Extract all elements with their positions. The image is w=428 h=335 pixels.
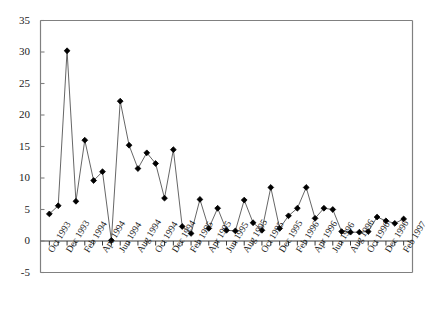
y-axis-tick-label: 20 (4, 109, 30, 120)
data-point-marker (64, 48, 70, 54)
data-series-line (49, 51, 403, 241)
data-point-marker (162, 195, 168, 201)
y-axis-tick-label: 10 (4, 172, 30, 183)
y-axis-tick-label: 35 (4, 15, 30, 26)
data-point-marker (268, 185, 274, 191)
data-point-marker (117, 98, 123, 104)
y-axis-tick-label: -5 (4, 267, 30, 278)
y-axis-tick-label: 25 (4, 78, 30, 89)
data-point-marker (330, 207, 336, 213)
data-point-marker (374, 214, 380, 220)
data-point-marker (73, 198, 79, 204)
data-point-marker (170, 147, 176, 153)
y-axis-tick-label: 0 (4, 235, 30, 246)
data-point-marker (303, 185, 309, 191)
y-axis-tick-label: 5 (4, 204, 30, 215)
data-point-marker (135, 166, 141, 172)
y-axis-tick-label: 15 (4, 141, 30, 152)
data-point-marker (215, 205, 221, 211)
data-point-marker (82, 137, 88, 143)
data-point-marker (241, 197, 247, 203)
data-point-marker (126, 142, 132, 148)
y-axis-tick-label: 30 (4, 46, 30, 57)
data-point-marker (197, 197, 203, 203)
